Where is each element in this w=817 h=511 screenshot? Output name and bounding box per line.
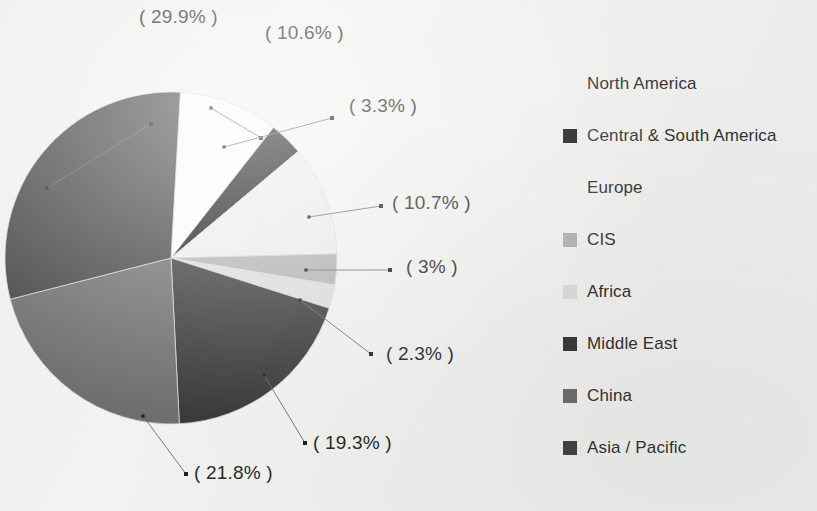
legend-item-china[interactable]: China [563, 370, 817, 422]
percent-label-africa: ( 2.3% ) [386, 343, 454, 365]
leader-anchor-dot-china [141, 414, 144, 417]
legend-item-middle-east[interactable]: Middle East [563, 318, 817, 370]
leader-anchor-dot-north-america [209, 106, 212, 109]
legend-item-africa[interactable]: Africa [563, 266, 817, 318]
legend-swatch-asia-pacific [563, 441, 577, 455]
percent-label-middle-east: ( 19.3% ) [313, 432, 392, 454]
legend-swatch-north-america [563, 77, 577, 91]
legend-item-cis[interactable]: CIS [563, 214, 817, 266]
leader-line-middle-east [264, 375, 305, 443]
leader-anchor-dot-middle-east [262, 373, 265, 376]
leader-end-dot-central-south [330, 116, 334, 120]
legend-label-central-south-america: Central & South America [587, 126, 777, 146]
leader-end-dot-cis [388, 268, 392, 272]
pie-slice-group [5, 92, 337, 424]
leader-anchor-dot-cis [304, 268, 307, 271]
legend-label-africa: Africa [587, 282, 631, 302]
leader-anchor-dot-europe [307, 215, 310, 218]
legend-label-north-america: North America [587, 74, 697, 94]
legend-item-europe[interactable]: Europe [563, 162, 817, 214]
legend-item-central-south-america[interactable]: Central & South America [563, 110, 817, 162]
percent-label-central-south: ( 3.3% ) [349, 95, 417, 117]
legend-item-north-america[interactable]: North America [563, 58, 817, 110]
leader-end-dot-china [184, 472, 188, 476]
legend-label-china: China [587, 386, 632, 406]
legend-swatch-middle-east [563, 337, 577, 351]
leader-line-china [143, 416, 186, 474]
leader-end-dot-asia-pacific [149, 122, 153, 126]
legend-label-europe: Europe [587, 178, 643, 198]
leader-end-dot-europe [379, 204, 383, 208]
legend-label-middle-east: Middle East [587, 334, 677, 354]
legend-swatch-africa [563, 285, 577, 299]
leader-anchor-dot-africa [298, 298, 301, 301]
legend-label-cis: CIS [587, 230, 616, 250]
legend-label-asia-pacific: Asia / Pacific [587, 438, 686, 458]
legend-swatch-cis [563, 233, 577, 247]
legend-item-asia-pacific[interactable]: Asia / Pacific [563, 422, 817, 474]
percent-label-china: ( 21.8% ) [194, 462, 273, 484]
percent-label-north-america: ( 10.6% ) [265, 22, 344, 44]
legend-swatch-europe [563, 181, 577, 195]
percent-label-europe: ( 10.7% ) [392, 192, 471, 214]
legend-swatch-central-south-america [563, 129, 577, 143]
leader-end-dot-middle-east [303, 441, 307, 445]
leader-anchor-dot-asia-pacific [45, 186, 48, 189]
leader-end-dot-africa [369, 352, 373, 356]
chart-legend: North AmericaCentral & South AmericaEuro… [563, 58, 817, 474]
percent-label-cis: ( 3% ) [406, 256, 458, 278]
leader-anchor-dot-central-south [222, 145, 225, 148]
legend-swatch-china [563, 389, 577, 403]
percent-label-asia-pacific: ( 29.9% ) [139, 6, 218, 28]
